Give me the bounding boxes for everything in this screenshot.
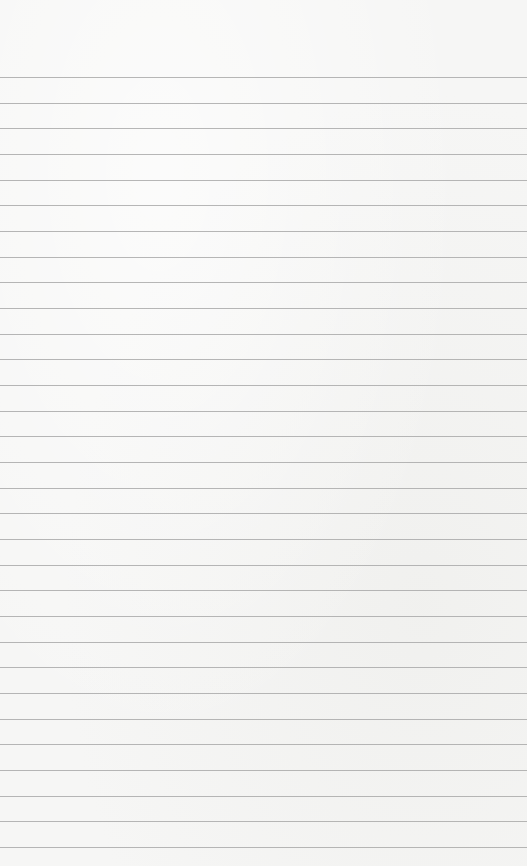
ruled-line xyxy=(0,744,527,745)
ruled-line xyxy=(0,462,527,463)
ruled-line xyxy=(0,565,527,566)
ruled-line xyxy=(0,128,527,129)
ruled-line xyxy=(0,770,527,771)
ruled-line xyxy=(0,257,527,258)
ruled-line xyxy=(0,796,527,797)
ruled-line xyxy=(0,282,527,283)
ruled-line xyxy=(0,385,527,386)
ruled-line xyxy=(0,231,527,232)
ruled-line xyxy=(0,590,527,591)
ruled-line xyxy=(0,180,527,181)
ruled-line xyxy=(0,667,527,668)
ruled-line xyxy=(0,436,527,437)
ruled-line xyxy=(0,539,527,540)
ruled-line xyxy=(0,693,527,694)
ruled-line xyxy=(0,103,527,104)
ruled-line xyxy=(0,308,527,309)
ruled-line xyxy=(0,334,527,335)
ruled-line xyxy=(0,719,527,720)
ruled-line xyxy=(0,154,527,155)
ruled-line xyxy=(0,821,527,822)
lined-paper-sheet xyxy=(0,0,527,866)
ruled-line xyxy=(0,359,527,360)
ruled-line xyxy=(0,488,527,489)
ruled-line xyxy=(0,642,527,643)
ruled-line xyxy=(0,847,527,848)
ruled-line xyxy=(0,205,527,206)
ruled-line xyxy=(0,513,527,514)
ruled-line xyxy=(0,411,527,412)
ruled-line xyxy=(0,77,527,78)
ruled-line xyxy=(0,616,527,617)
